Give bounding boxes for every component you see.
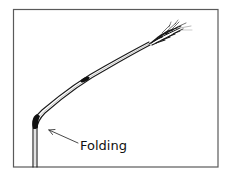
folding-node-band [32,119,38,129]
folding-label: Folding [80,138,127,153]
wheat-folding-diagram: Folding [0,0,229,177]
